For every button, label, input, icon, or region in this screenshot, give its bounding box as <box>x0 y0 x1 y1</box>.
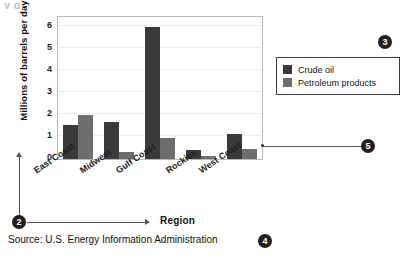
bar-group <box>140 17 181 159</box>
y-tick-label: 1 <box>30 130 52 140</box>
bar-groups <box>58 17 262 159</box>
callout-arrowhead-icon <box>16 152 22 157</box>
callout-leader-line <box>263 146 361 147</box>
legend-swatch-icon <box>283 65 292 74</box>
callout-marker-3: 3 <box>378 35 392 49</box>
callout-leader-line <box>27 222 145 223</box>
y-tick-label: 2 <box>30 108 52 118</box>
bar-group <box>99 17 140 159</box>
bar-west-coast-petroleum-products <box>242 149 257 159</box>
bar-group <box>58 17 99 159</box>
y-tick-label: 3 <box>30 86 52 96</box>
figure-canvas: y g Millions of barrels per day 6 5 4 3 … <box>0 0 409 256</box>
bar-east-coast-petroleum-products <box>78 115 93 159</box>
plot-inner <box>58 17 262 159</box>
callout-marker-4: 4 <box>258 234 272 248</box>
source-caption: Source: U.S. Energy Information Administ… <box>8 234 218 245</box>
chart-legend: Crude oil Petroleum products <box>276 57 400 95</box>
legend-swatch-icon <box>283 78 292 87</box>
bar-group <box>180 17 221 159</box>
y-tick-label: 6 <box>30 20 52 30</box>
y-tick-label: 5 <box>30 42 52 52</box>
legend-label: Petroleum products <box>298 78 376 88</box>
legend-item-crude-oil: Crude oil <box>283 65 393 75</box>
bar-gulf-coast-petroleum-products <box>160 138 175 159</box>
bar-group <box>221 17 262 159</box>
callout-leader-line <box>19 157 20 215</box>
x-axis-title: Region <box>160 215 195 226</box>
callout-arrowhead-icon <box>145 219 150 225</box>
y-axis-title: Millions of barrels per day <box>18 0 29 131</box>
callout-marker-5: 5 <box>361 139 375 153</box>
callout-marker-2: 2 <box>12 215 26 229</box>
legend-item-petroleum-products: Petroleum products <box>283 78 393 88</box>
y-tick-label: 4 <box>30 64 52 74</box>
plot-area <box>57 16 263 160</box>
callout-anchor-dot <box>261 144 264 147</box>
legend-label: Crude oil <box>298 65 334 75</box>
bar-gulf-coast-crude-oil <box>145 27 160 159</box>
